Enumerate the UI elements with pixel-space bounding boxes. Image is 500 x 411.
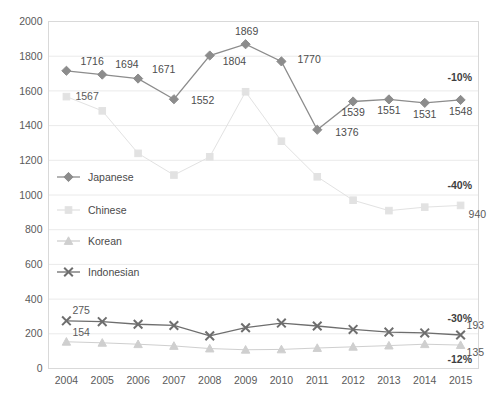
marker-chinese-2009-glyph bbox=[242, 88, 249, 95]
data-label-japanese-2013: 1551 bbox=[377, 104, 401, 116]
marker-chinese-2007-glyph bbox=[171, 172, 178, 179]
y-axis-tick-1000: 1000 bbox=[19, 189, 43, 201]
x-axis-tick-2013: 2013 bbox=[377, 374, 401, 386]
x-axis-tick-2010: 2010 bbox=[270, 374, 294, 386]
x-axis-tick-2011: 2011 bbox=[306, 374, 329, 386]
marker-chinese-2006-glyph bbox=[135, 150, 142, 157]
marker-chinese-2008 bbox=[206, 154, 213, 161]
marker-chinese-2005-glyph bbox=[99, 108, 106, 115]
y-axis-tick-0: 0 bbox=[37, 362, 43, 374]
x-axis-tick-2006: 2006 bbox=[126, 374, 150, 386]
y-axis-tick-1600: 1600 bbox=[19, 85, 43, 97]
marker-chinese-2010 bbox=[278, 138, 285, 145]
data-label-japanese-2009: 1869 bbox=[235, 25, 259, 37]
data-label-korean-2004: 154 bbox=[72, 326, 90, 338]
data-label-japanese-2015: 1548 bbox=[449, 105, 473, 117]
marker-chinese-2011 bbox=[314, 173, 321, 180]
legend-item-japanese[interactable]: Japanese bbox=[57, 171, 134, 183]
y-axis-tick-1400: 1400 bbox=[19, 119, 43, 131]
data-label-japanese-2005: 1694 bbox=[115, 58, 139, 70]
x-axis-tick-2007: 2007 bbox=[162, 374, 186, 386]
y-axis-tick-1800: 1800 bbox=[19, 50, 43, 62]
marker-chinese-2015 bbox=[457, 202, 464, 209]
data-label-japanese-2008: 1804 bbox=[223, 55, 247, 67]
data-label-japanese-2012: 1539 bbox=[341, 106, 365, 118]
x-axis-tick-2005: 2005 bbox=[91, 374, 115, 386]
percent-change-indonesian: -30% bbox=[447, 312, 472, 324]
marker-chinese-2014-glyph bbox=[421, 204, 428, 211]
x-axis-tick-2015: 2015 bbox=[449, 374, 473, 386]
marker-chinese-2015-glyph bbox=[457, 202, 464, 209]
data-label-indonesian-2004: 275 bbox=[72, 304, 90, 316]
legend-marker-chinese bbox=[65, 207, 72, 214]
data-label-japanese-2011: 1376 bbox=[335, 126, 359, 138]
marker-chinese-2005 bbox=[99, 108, 106, 115]
y-axis-tick-2000: 2000 bbox=[19, 15, 43, 27]
data-label-japanese-2007: 1552 bbox=[191, 94, 215, 106]
chart-canvas: 2000180016001400120010008006004002000 20… bbox=[0, 0, 500, 411]
marker-chinese-2004 bbox=[63, 93, 70, 100]
marker-chinese-2013 bbox=[386, 207, 393, 214]
y-axis-tick-1200: 1200 bbox=[19, 154, 43, 166]
line-chart: 2000180016001400120010008006004002000 20… bbox=[0, 0, 500, 411]
marker-chinese-2007 bbox=[171, 172, 178, 179]
data-label-japanese-2010: 1770 bbox=[297, 53, 321, 65]
marker-chinese-2009 bbox=[242, 88, 249, 95]
marker-chinese-2013-glyph bbox=[386, 207, 393, 214]
y-axis-tick-400: 400 bbox=[25, 293, 43, 305]
marker-chinese-2012 bbox=[350, 197, 357, 204]
data-label-chinese-2015: 940 bbox=[469, 208, 487, 220]
legend-label-chinese: Chinese bbox=[88, 204, 127, 216]
legend-label-indonesian: Indonesian bbox=[88, 266, 140, 278]
legend-label-korean: Korean bbox=[88, 235, 122, 247]
marker-chinese-2010-glyph bbox=[278, 138, 285, 145]
x-axis-tick-2012: 2012 bbox=[341, 374, 365, 386]
marker-chinese-2006 bbox=[135, 150, 142, 157]
data-label-japanese-2014: 1531 bbox=[413, 108, 437, 120]
percent-change-japanese: -10% bbox=[447, 71, 472, 83]
x-axis-tick-2014: 2014 bbox=[413, 374, 437, 386]
y-axis-tick-800: 800 bbox=[25, 223, 43, 235]
x-axis-tick-2008: 2008 bbox=[198, 374, 222, 386]
x-axis-tick-2004: 2004 bbox=[55, 374, 79, 386]
marker-chinese-2004-glyph bbox=[63, 93, 70, 100]
marker-chinese-2011-glyph bbox=[314, 173, 321, 180]
y-axis-tick-600: 600 bbox=[25, 258, 43, 270]
percent-change-chinese: -40% bbox=[447, 179, 472, 191]
percent-change-korean: -12% bbox=[447, 353, 472, 365]
legend-marker-chinese-glyph bbox=[65, 207, 72, 214]
data-label-japanese-2004: 1716 bbox=[80, 55, 104, 67]
marker-chinese-2012-glyph bbox=[350, 197, 357, 204]
data-label-japanese-2006: 1671 bbox=[152, 63, 176, 75]
data-label-chinese-2004: 1567 bbox=[75, 90, 99, 102]
legend-label-japanese: Japanese bbox=[88, 171, 134, 183]
x-axis-tick-2009: 2009 bbox=[234, 374, 258, 386]
y-axis-tick-200: 200 bbox=[25, 327, 43, 339]
marker-chinese-2008-glyph bbox=[206, 154, 213, 161]
marker-chinese-2014 bbox=[421, 204, 428, 211]
